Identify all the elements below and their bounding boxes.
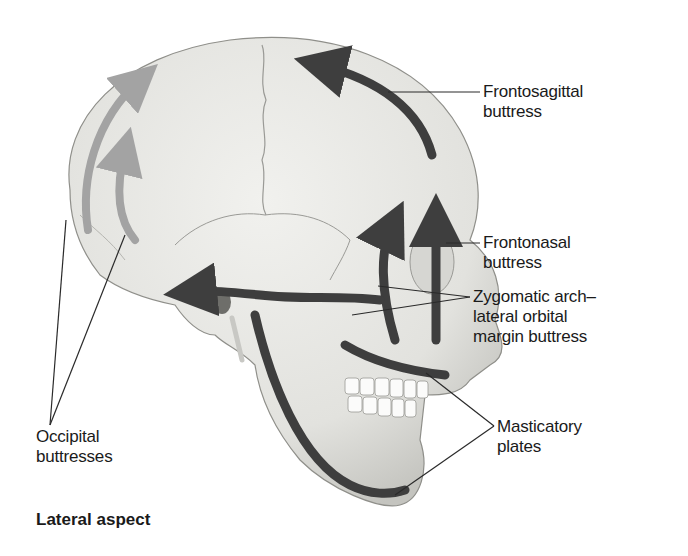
label-frontosagittal-buttress: Frontosagittal buttress xyxy=(483,82,583,122)
label-line: margin buttress xyxy=(473,327,596,347)
label-occipital-buttresses: Occipital buttresses xyxy=(36,427,112,467)
label-frontonasal-buttress: Frontonasal buttress xyxy=(483,233,571,273)
label-line: buttress xyxy=(483,102,583,122)
skull-illustration xyxy=(0,0,688,556)
label-line: Zygomatic arch– xyxy=(473,287,596,307)
label-line: Frontosagittal xyxy=(483,82,583,102)
label-line: buttress xyxy=(483,253,571,273)
label-line: Occipital xyxy=(36,427,112,447)
label-masticatory-plates: Masticatory plates xyxy=(497,417,582,457)
label-line: Masticatory xyxy=(497,417,582,437)
figure-caption: Lateral aspect xyxy=(36,510,150,530)
label-line: plates xyxy=(497,437,582,457)
label-line: Frontonasal xyxy=(483,233,571,253)
label-zygomatic-lateral-orbital-buttress: Zygomatic arch– lateral orbital margin b… xyxy=(473,287,596,347)
label-line: lateral orbital xyxy=(473,307,596,327)
label-line: buttresses xyxy=(36,447,112,467)
